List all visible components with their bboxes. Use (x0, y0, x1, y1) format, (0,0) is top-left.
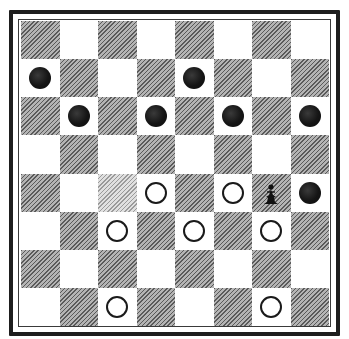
black-checker-piece[interactable] (68, 105, 90, 127)
square-r1-c2[interactable] (98, 59, 137, 97)
black-checker-piece[interactable] (222, 105, 244, 127)
square-r6-c4[interactable] (175, 250, 214, 288)
square-r7-c1[interactable] (60, 288, 99, 326)
square-r5-c6[interactable] (252, 212, 291, 250)
square-r0-c0[interactable] (21, 21, 60, 59)
square-r2-c2[interactable] (98, 97, 137, 135)
square-r2-c7[interactable] (291, 97, 330, 135)
square-r0-c2[interactable] (98, 21, 137, 59)
square-r2-c6[interactable] (252, 97, 291, 135)
square-r7-c3[interactable] (137, 288, 176, 326)
square-r0-c4[interactable] (175, 21, 214, 59)
square-r5-c2[interactable] (98, 212, 137, 250)
square-r2-c3[interactable] (137, 97, 176, 135)
square-r3-c5[interactable] (214, 135, 253, 173)
square-r3-c1[interactable] (60, 135, 99, 173)
square-r6-c6[interactable] (252, 250, 291, 288)
square-r7-c2[interactable] (98, 288, 137, 326)
square-r6-c2[interactable] (98, 250, 137, 288)
square-r3-c7[interactable] (291, 135, 330, 173)
white-checker-piece[interactable] (145, 182, 167, 204)
square-r1-c1[interactable] (60, 59, 99, 97)
square-r7-c5[interactable] (214, 288, 253, 326)
square-r4-c5[interactable] (214, 174, 253, 212)
square-r3-c3[interactable] (137, 135, 176, 173)
black-checker-piece[interactable] (299, 182, 321, 204)
white-checker-piece[interactable] (106, 220, 128, 242)
square-r0-c7[interactable] (291, 21, 330, 59)
square-r1-c3[interactable] (137, 59, 176, 97)
square-r0-c5[interactable] (214, 21, 253, 59)
square-r5-c4[interactable] (175, 212, 214, 250)
square-r6-c5[interactable] (214, 250, 253, 288)
square-r1-c0[interactable] (21, 59, 60, 97)
king-figure-icon[interactable] (258, 180, 284, 206)
white-checker-piece[interactable] (222, 182, 244, 204)
square-r6-c1[interactable] (60, 250, 99, 288)
square-r6-c0[interactable] (21, 250, 60, 288)
square-r2-c0[interactable] (21, 97, 60, 135)
black-checker-piece[interactable] (29, 67, 51, 89)
white-checker-piece[interactable] (106, 296, 128, 318)
square-r1-c4[interactable] (175, 59, 214, 97)
white-checker-piece[interactable] (260, 220, 282, 242)
square-r6-c3[interactable] (137, 250, 176, 288)
square-r3-c6[interactable] (252, 135, 291, 173)
square-r4-c3[interactable] (137, 174, 176, 212)
white-checker-piece[interactable] (260, 296, 282, 318)
square-r3-c4[interactable] (175, 135, 214, 173)
square-r1-c6[interactable] (252, 59, 291, 97)
square-r2-c1[interactable] (60, 97, 99, 135)
square-r4-c0[interactable] (21, 174, 60, 212)
square-r5-c1[interactable] (60, 212, 99, 250)
square-r4-c2[interactable] (98, 174, 137, 212)
square-r0-c6[interactable] (252, 21, 291, 59)
square-r7-c7[interactable] (291, 288, 330, 326)
square-r0-c3[interactable] (137, 21, 176, 59)
square-r5-c7[interactable] (291, 212, 330, 250)
square-r2-c5[interactable] (214, 97, 253, 135)
square-r6-c7[interactable] (291, 250, 330, 288)
square-r4-c4[interactable] (175, 174, 214, 212)
square-r5-c5[interactable] (214, 212, 253, 250)
square-r0-c1[interactable] (60, 21, 99, 59)
square-r7-c0[interactable] (21, 288, 60, 326)
square-r4-c7[interactable] (291, 174, 330, 212)
square-r7-c6[interactable] (252, 288, 291, 326)
black-checker-piece[interactable] (299, 105, 321, 127)
square-r2-c4[interactable] (175, 97, 214, 135)
black-checker-piece[interactable] (183, 67, 205, 89)
square-r3-c2[interactable] (98, 135, 137, 173)
square-r5-c3[interactable] (137, 212, 176, 250)
square-r4-c1[interactable] (60, 174, 99, 212)
square-r7-c4[interactable] (175, 288, 214, 326)
square-r5-c0[interactable] (21, 212, 60, 250)
black-checker-piece[interactable] (145, 105, 167, 127)
square-r1-c7[interactable] (291, 59, 330, 97)
square-r1-c5[interactable] (214, 59, 253, 97)
square-r4-c6[interactable] (252, 174, 291, 212)
square-r3-c0[interactable] (21, 135, 60, 173)
checkerboard (21, 21, 329, 326)
white-checker-piece[interactable] (183, 220, 205, 242)
